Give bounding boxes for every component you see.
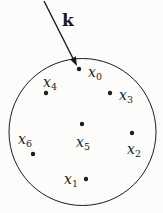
point-label-x1: x1 bbox=[64, 171, 78, 189]
point-label-x4: x4 bbox=[43, 74, 57, 92]
point-label-x6: x6 bbox=[18, 131, 32, 149]
point-label-x2: x2 bbox=[127, 141, 141, 159]
data-point-x0: x0 bbox=[77, 64, 102, 82]
k-arrow-label: k bbox=[62, 10, 75, 30]
point-dot-x1 bbox=[84, 177, 88, 181]
point-dot-x6 bbox=[31, 152, 35, 156]
data-point-x5: x5 bbox=[76, 122, 90, 152]
point-label-x0: x0 bbox=[88, 64, 102, 82]
data-point-x4: x4 bbox=[43, 74, 57, 95]
point-label-x5: x5 bbox=[76, 134, 90, 152]
data-point-x3: x3 bbox=[108, 87, 133, 105]
data-point-x6: x6 bbox=[18, 131, 35, 156]
point-dot-x3 bbox=[108, 91, 112, 95]
data-point-x1: x1 bbox=[64, 171, 88, 189]
point-dot-x2 bbox=[130, 131, 134, 135]
k-arrowhead-icon bbox=[70, 56, 77, 66]
sample-points-diagram: k x0x4x3x5x2x6x1 bbox=[0, 0, 163, 213]
point-dot-x0 bbox=[77, 67, 81, 71]
point-label-x3: x3 bbox=[119, 87, 133, 105]
data-point-x2: x2 bbox=[127, 131, 141, 159]
point-dot-x5 bbox=[80, 122, 84, 126]
figure-stage: k x0x4x3x5x2x6x1 bbox=[0, 0, 163, 213]
point-dot-x4 bbox=[44, 91, 48, 95]
data-points-layer: x0x4x3x5x2x6x1 bbox=[18, 64, 141, 189]
